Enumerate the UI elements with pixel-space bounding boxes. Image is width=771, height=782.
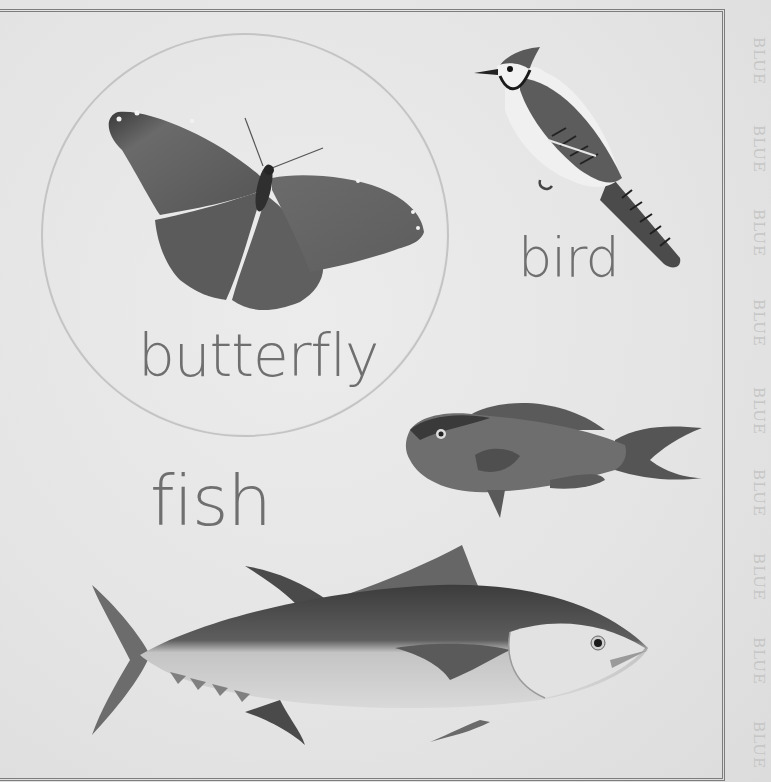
tuna-illustration <box>0 0 771 782</box>
fish-label: fish <box>150 460 271 542</box>
butterfly-label: butterfly <box>138 322 378 390</box>
bird-label: bird <box>518 226 619 289</box>
illustrated-page: BLUE BLUE BLUE BLUE BLUE BLUE BLUE BLUE … <box>0 0 771 782</box>
